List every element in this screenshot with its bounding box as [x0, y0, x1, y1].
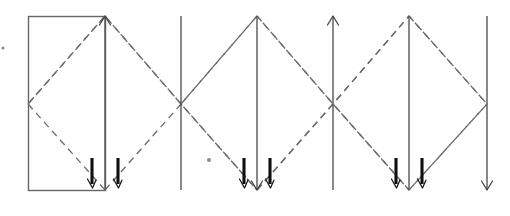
dashed-zigzag-path-b [105, 16, 487, 190]
left-rectangle [29, 17, 106, 191]
figure-container [0, 0, 510, 216]
speck-mid-low-icon [207, 158, 211, 162]
speck-left-edge-icon [1, 46, 4, 49]
dashed-segment-lower-left [28, 16, 105, 104]
zigzag-diagram [0, 0, 510, 216]
